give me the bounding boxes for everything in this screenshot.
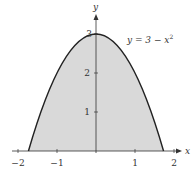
y-tick-label: 2 <box>84 68 90 78</box>
x-axis-label: x <box>185 146 190 156</box>
y-tick-label: 1 <box>84 107 90 117</box>
x-tick-label: −2 <box>11 158 24 168</box>
equation-superscript: 2 <box>169 33 173 40</box>
x-axis-arrow-icon <box>176 149 182 154</box>
y-axis-arrow-icon <box>94 14 99 20</box>
x-tick-label: 1 <box>132 158 138 168</box>
y-tick-label: 3 <box>86 29 92 39</box>
x-tick-label: −1 <box>50 158 63 168</box>
equation-label: y = 3 − x2 <box>126 33 173 45</box>
x-tick-label: 2 <box>171 158 177 168</box>
equation-main: y = 3 − x <box>126 35 169 45</box>
chart: −2 −1 1 2 1 2 3 x y y = 3 − x2 <box>0 0 193 179</box>
y-axis-label: y <box>92 2 99 12</box>
